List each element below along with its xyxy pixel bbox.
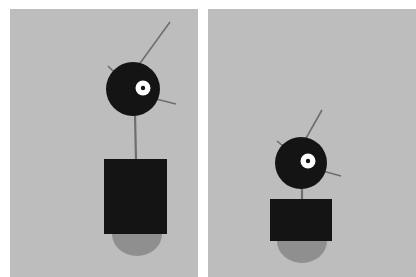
figure-right [208, 9, 416, 277]
canvas-top-margin [0, 0, 416, 9]
panel-divider [198, 0, 208, 277]
eye-pupil-left [141, 86, 145, 90]
scene-canvas [0, 0, 416, 277]
neck-left [135, 114, 136, 160]
eye-pupil-right [306, 159, 310, 163]
head-circle-left [106, 62, 160, 116]
figure-right-svg [208, 9, 416, 277]
figure-left [10, 9, 198, 277]
antenna-upper-right-left-panel [138, 22, 170, 66]
body-rect-left [104, 159, 167, 234]
canvas-left-margin [0, 0, 10, 277]
panel-right[interactable] [208, 9, 416, 277]
body-rect-right [270, 199, 332, 241]
panel-left[interactable] [10, 9, 198, 277]
figure-left-svg [10, 9, 198, 277]
antenna-upper-right-right-panel [305, 110, 322, 140]
